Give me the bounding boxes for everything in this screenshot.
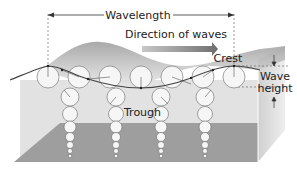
trough-label: Trough [123, 106, 161, 119]
wave-diagram: Wavelength Direction of waves [0, 0, 297, 180]
crest-label: Crest [214, 52, 243, 65]
arrowhead-right-icon [228, 13, 234, 18]
wavelength-label: Wavelength [105, 9, 170, 22]
direction-arrow-icon [142, 42, 218, 56]
direction-label: Direction of waves [125, 28, 227, 41]
wave-height-label-line2: height [257, 82, 293, 95]
arrowhead-left-icon [48, 13, 54, 18]
